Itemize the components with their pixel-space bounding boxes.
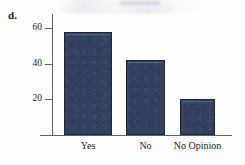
y-axis-tick-label: 40 [20, 59, 42, 69]
y-axis-tick-mark [45, 28, 53, 29]
bar [180, 99, 215, 135]
bar-top-highlight [66, 34, 110, 35]
y-axis-tick-label-wrap: 40 [18, 59, 42, 69]
y-axis-tick-label-wrap: 60 [18, 23, 42, 33]
figure-panel: d. 204060 YesNoNo Opinion [0, 0, 245, 165]
x-axis-line [40, 135, 232, 136]
bar [64, 32, 112, 135]
x-axis-category-label: No Opinion [158, 140, 238, 151]
bar [126, 60, 165, 135]
bar-top-highlight [182, 101, 213, 102]
bar-chart: 204060 YesNoNo Opinion [0, 0, 245, 165]
y-axis-line [52, 14, 53, 136]
bar-top-highlight [128, 62, 163, 63]
y-axis-tick-mark [45, 64, 53, 65]
y-axis-tick-label: 60 [20, 23, 42, 33]
y-axis-tick-label: 20 [20, 94, 42, 104]
y-axis-tick-mark [45, 99, 53, 100]
y-axis-tick-label-wrap: 20 [18, 94, 42, 104]
